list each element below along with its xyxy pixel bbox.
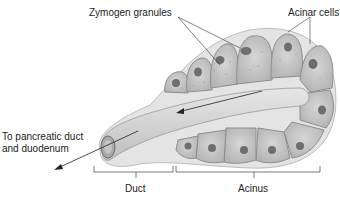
brackets	[94, 166, 320, 178]
label-outlet-line1: To pancreatic duct	[2, 131, 83, 143]
acinus-diagram: Zymogen granules Acinar cells To pancrea…	[0, 0, 340, 202]
label-duct: Duct	[125, 183, 146, 195]
label-acinar-cells: Acinar cells	[288, 7, 339, 19]
label-outlet-line2: and duodenum	[2, 143, 69, 155]
label-acinus: Acinus	[238, 183, 268, 195]
acinus-illustration	[0, 0, 340, 202]
label-zymogen-granules: Zymogen granules	[89, 7, 172, 19]
